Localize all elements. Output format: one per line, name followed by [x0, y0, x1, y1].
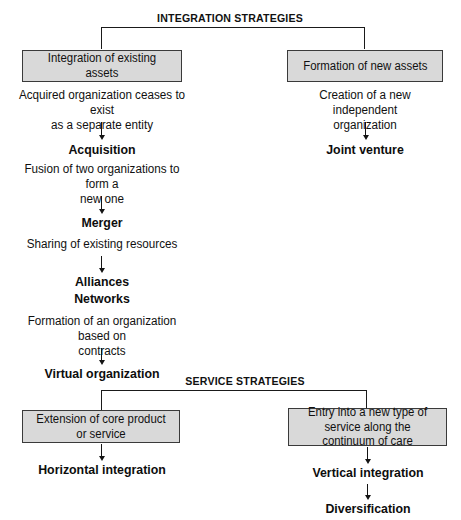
arrow-to-merger [97, 196, 106, 214]
arrow-head [99, 268, 105, 273]
term-horizontal-integration: Horizontal integration [26, 462, 178, 478]
term-joint-venture: Joint venture [305, 142, 425, 158]
term-label: Diversification [296, 501, 440, 517]
term-merger: Merger [42, 215, 162, 231]
term-label: Vertical integration [296, 465, 440, 481]
term-label: Horizontal integration [30, 462, 174, 478]
box-extension-of-core-product-or-service: Extension of core product or service [22, 410, 180, 443]
term-acquisition: Acquisition [42, 142, 162, 158]
arrow-to-vertical-integration [363, 447, 372, 464]
arrow-head [363, 135, 369, 140]
term-networks: Networks [42, 291, 162, 307]
arrow-shaft [101, 348, 103, 361]
arrow-to-horizontal-integration [97, 444, 106, 461]
term-vertical-integration: Vertical integration [292, 465, 444, 481]
term-label: Virtual organization [31, 366, 174, 382]
arrow-to-diversification [363, 484, 372, 500]
arrow-head [365, 495, 371, 500]
box-label: Extension of core product or service [31, 412, 172, 441]
arrow-to-joint-venture [361, 122, 370, 140]
arrow-to-alliances [97, 256, 106, 273]
box-label: Integration of existing assets [31, 51, 174, 80]
arrow-shaft [101, 444, 103, 457]
section-title-integration-strategies: INTEGRATION STRATEGIES [156, 12, 303, 24]
arrow-shaft [367, 484, 369, 496]
line-1: Formation of an organization based on [17, 314, 188, 344]
term-virtual-organization: Virtual organization [27, 366, 177, 382]
line-1: Fusion of two organizations to form a [17, 162, 188, 192]
arrow-shaft [101, 196, 103, 210]
box-entry-into-new-type-of-service: Entry into a new type of service along t… [288, 408, 447, 446]
term-alliances: Alliances [42, 274, 162, 290]
strategy-flow-diagram: INTEGRATION STRATEGIES Integration of ex… [0, 0, 461, 520]
arrow-head [99, 209, 105, 214]
bracket-integration-strategies [101, 27, 365, 49]
arrow-head [99, 456, 105, 461]
box-integration-of-existing-assets: Integration of existing assets [22, 50, 182, 82]
box-label-lines: Entry into a new type of service along t… [297, 405, 439, 449]
text-sharing-existing-resources: Sharing of existing resources [12, 237, 192, 252]
box-label: Formation of new assets [303, 59, 427, 74]
term-label: Alliances [45, 274, 159, 290]
box-formation-of-new-assets: Formation of new assets [287, 50, 443, 82]
line-1: Acquired organization ceases to exist [17, 88, 188, 118]
term-label: Merger [45, 215, 159, 231]
term-diversification: Diversification [292, 501, 444, 517]
line-1: Sharing of existing resources [17, 237, 188, 252]
arrow-to-virtual-organization [97, 348, 106, 365]
term-label: Joint venture [308, 142, 422, 158]
section-title-service-strategies: SERVICE STRATEGIES [183, 375, 306, 387]
term-label: Networks [45, 291, 159, 307]
arrow-shaft [101, 122, 103, 136]
arrow-head [365, 459, 371, 464]
arrow-shaft [101, 256, 103, 269]
arrow-shaft [365, 122, 367, 136]
term-label: Acquisition [45, 142, 159, 158]
line-1: Creation of a new independent [289, 88, 441, 118]
arrow-to-acquisition [97, 122, 106, 140]
arrow-head [99, 360, 105, 365]
arrow-head [99, 135, 105, 140]
arrow-shaft [367, 447, 369, 460]
